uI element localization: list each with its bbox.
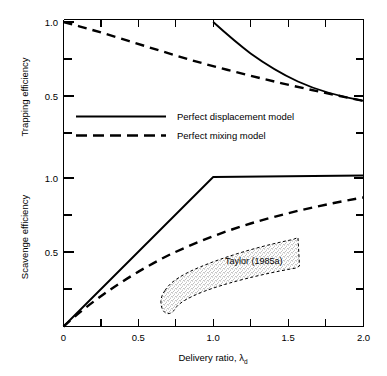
bottom-axis-ticks <box>101 319 326 327</box>
curve-perfect-displacement-scavenge <box>64 176 364 327</box>
y-axis-title-scavenge: Scavenge efficiency <box>19 195 30 280</box>
x-tick-labels: 0 0.5 1.0 1.5 2.0 <box>61 332 370 343</box>
x-tick-label-3: 1.5 <box>281 332 294 343</box>
x-axis-title: Delivery ratio, λd <box>178 352 247 365</box>
x-axis-title-text: Delivery ratio, λ <box>178 352 244 363</box>
y-tick-labels-trapping: 1.0 0.5 <box>45 17 58 102</box>
y-tick-labels-scavenge: 1.0 0.5 <box>45 173 58 258</box>
y-tick-label-scavenge-2: 0.5 <box>45 247 58 258</box>
y-tick-label-scavenge-1: 1.0 <box>45 173 58 184</box>
curve-perfect-displacement-trapping <box>213 22 363 101</box>
y-tick-label-trapping-1: 1.0 <box>45 17 58 28</box>
legend-label-perfect-displacement: Perfect displacement model <box>177 111 294 122</box>
x-tick-label-2: 1.0 <box>207 332 220 343</box>
chart-figure: Perfect displacement model Perfect mixin… <box>0 0 387 376</box>
x-axis-title-subscript: d <box>244 358 248 365</box>
chart-plot-area: Perfect displacement model Perfect mixin… <box>0 0 387 376</box>
x-tick-label-4: 2.0 <box>357 332 370 343</box>
right-axis-ticks <box>354 59 364 289</box>
annotation-taylor-label: Taylor (1985a) <box>225 256 283 266</box>
x-tick-label-0: 0 <box>61 332 66 343</box>
left-axis-ticks <box>64 22 74 289</box>
y-axis-title-trapping: Trapping efficiency <box>19 57 30 136</box>
y-tick-label-trapping-2: 0.5 <box>45 91 58 102</box>
legend-label-perfect-mixing: Perfect mixing model <box>177 130 266 141</box>
x-tick-label-1: 0.5 <box>132 332 145 343</box>
panel-scavenge-curves <box>64 176 364 327</box>
panel-trapping-curves <box>64 22 364 101</box>
chart-legend: Perfect displacement model Perfect mixin… <box>76 111 294 141</box>
